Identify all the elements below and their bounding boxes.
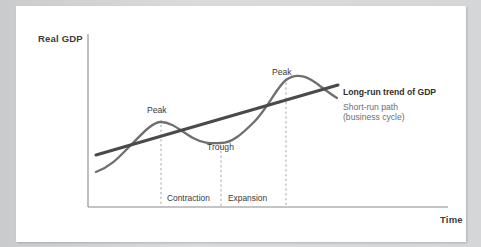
annotation-trough: Trough [207, 142, 234, 152]
x-axis-label: Time [440, 214, 463, 225]
legend-label-long-run-trend: Long-run trend of GDP [343, 87, 436, 97]
business-cycle-chart-svg [16, 6, 466, 242]
annotation-peak-first: Peak [147, 105, 167, 115]
legend-short-run-line2: (business cycle) [343, 112, 405, 122]
business-cycle-figure: Real GDP Time Peak Peak Trough Contracti… [16, 6, 466, 242]
y-axis-label: Real GDP [38, 33, 83, 44]
annotation-phase-expansion: Expansion [228, 194, 267, 204]
legend-label-short-run-path: Short-run path (business cycle) [343, 102, 405, 122]
annotation-peak-second: Peak [272, 67, 292, 77]
legend-short-run-line1: Short-run path [343, 102, 405, 112]
screenshot-canvas: Real GDP Time Peak Peak Trough Contracti… [0, 0, 481, 247]
textbook-page: Real GDP Time Peak Peak Trough Contracti… [16, 6, 466, 242]
annotation-phase-contraction: Contraction [167, 194, 210, 204]
short-run-path-line [96, 76, 337, 172]
